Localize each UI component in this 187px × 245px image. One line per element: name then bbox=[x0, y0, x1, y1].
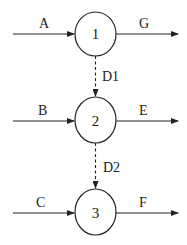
input-arrow-a: A bbox=[13, 16, 74, 34]
output-label-g: G bbox=[139, 16, 149, 31]
link-label-d2: D2 bbox=[103, 160, 120, 175]
output-label-e: E bbox=[139, 103, 148, 118]
input-label-a: A bbox=[39, 16, 50, 31]
link-d1: D1 bbox=[96, 56, 120, 96]
output-arrow-f: F bbox=[116, 195, 178, 213]
node-3-label: 3 bbox=[92, 205, 100, 221]
node-1: 1 bbox=[75, 12, 116, 56]
node-3: 3 bbox=[75, 189, 116, 235]
output-label-f: F bbox=[139, 195, 147, 210]
flow-diagram: A 1 G D1 B 2 E D2 C 3 F bbox=[0, 0, 187, 245]
output-arrow-g: G bbox=[116, 16, 178, 34]
link-d2: D2 bbox=[96, 143, 121, 188]
input-arrow-b: B bbox=[13, 103, 74, 121]
node-2: 2 bbox=[75, 97, 116, 143]
input-arrow-c: C bbox=[13, 195, 74, 213]
link-label-d1: D1 bbox=[102, 69, 119, 84]
input-label-b: B bbox=[38, 103, 47, 118]
output-arrow-e: E bbox=[116, 103, 178, 121]
input-label-c: C bbox=[36, 195, 45, 210]
node-1-label: 1 bbox=[92, 26, 100, 42]
node-2-label: 2 bbox=[92, 113, 100, 129]
